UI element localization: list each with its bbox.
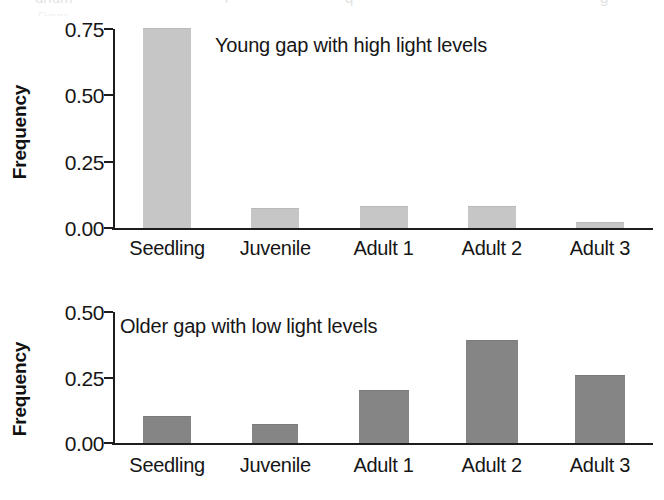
x-axis-line-bottom bbox=[112, 443, 653, 445]
y-axis-tick bbox=[104, 161, 113, 163]
bar-seedling bbox=[143, 28, 191, 228]
bar-seedling bbox=[143, 416, 191, 443]
y-axis-tick-label: 0.50 bbox=[65, 302, 104, 323]
y-axis-tick bbox=[104, 442, 113, 444]
x-axis-labels-bottom: SeedlingJuvenileAdult 1Adult 2Adult 3 bbox=[113, 455, 654, 481]
x-axis-label-adult-3: Adult 3 bbox=[546, 455, 654, 475]
y-axis-tick-label: 0.25 bbox=[65, 151, 104, 172]
y-axis-tick bbox=[104, 94, 113, 96]
bar-chart-figure: unum i q g Figure Frequency Young gap wi… bbox=[0, 0, 664, 500]
x-axis-label-adult-1: Adult 1 bbox=[329, 455, 437, 475]
bar-juvenile bbox=[252, 424, 298, 443]
y-axis-tick bbox=[104, 227, 113, 229]
y-axis-tick-label: 0.50 bbox=[65, 85, 104, 106]
bar-group-bottom bbox=[113, 312, 654, 443]
bar-adult-3 bbox=[575, 375, 625, 443]
bar-juvenile bbox=[251, 208, 299, 228]
y-axis-label-bottom: Frequency bbox=[9, 334, 31, 444]
x-axis-line-top bbox=[112, 228, 653, 230]
plot-area-bottom: Older gap with low light levels 0.000.25… bbox=[113, 312, 654, 443]
x-axis-label-adult-2: Adult 2 bbox=[438, 455, 546, 475]
y-axis-tick-label: 0.25 bbox=[65, 367, 104, 388]
y-axis-tick-label: 0.00 bbox=[65, 433, 104, 454]
bar-adult-1 bbox=[360, 206, 408, 228]
x-axis-label-seedling: Seedling bbox=[113, 455, 221, 475]
bar-adult-3 bbox=[576, 222, 624, 228]
plot-area-top: Young gap with high light levels 0.000.2… bbox=[113, 29, 654, 228]
x-axis-label-adult-2: Adult 2 bbox=[438, 238, 546, 258]
bar-group-top bbox=[113, 29, 654, 228]
x-axis-label-seedling: Seedling bbox=[113, 238, 221, 258]
y-axis-label-top: Frequency bbox=[9, 77, 31, 187]
chart-panel-top: Frequency Young gap with high light leve… bbox=[0, 0, 664, 275]
x-axis-label-adult-3: Adult 3 bbox=[546, 238, 654, 258]
x-axis-label-juvenile: Juvenile bbox=[221, 455, 329, 475]
x-axis-label-juvenile: Juvenile bbox=[221, 238, 329, 258]
y-axis-tick bbox=[104, 28, 113, 30]
bar-adult-2 bbox=[466, 340, 518, 443]
y-axis-tick bbox=[104, 311, 113, 313]
bar-adult-1 bbox=[359, 390, 409, 443]
y-axis-tick-label: 0.00 bbox=[65, 218, 104, 239]
bar-adult-2 bbox=[468, 206, 516, 228]
y-axis-tick-label: 0.75 bbox=[65, 19, 104, 40]
x-axis-label-adult-1: Adult 1 bbox=[329, 238, 437, 258]
x-axis-labels-top: SeedlingJuvenileAdult 1Adult 2Adult 3 bbox=[113, 238, 654, 264]
y-axis-tick bbox=[104, 377, 113, 379]
